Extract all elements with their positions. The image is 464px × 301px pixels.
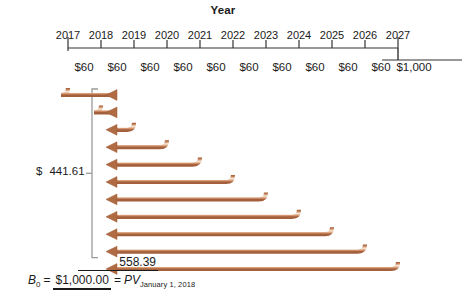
- discount-arrow-2022: [106, 66, 233, 187]
- year-label-2021: 2021: [188, 30, 212, 41]
- interest-pv-annotation: $441.61: [36, 166, 85, 178]
- cash-flow-label-2025: $60: [338, 62, 357, 74]
- year-label-2018: 2018: [89, 30, 113, 41]
- balance-annotation: 558.39 B0 = $1,000.00 = PVJanuary 1, 201…: [28, 255, 195, 290]
- year-label-2017: 2017: [56, 30, 80, 41]
- year-label-2024: 2024: [287, 30, 311, 41]
- balance-equals-1: =: [43, 273, 50, 287]
- cash-flow-label-2024: $60: [305, 62, 324, 74]
- year-label-2019: 2019: [122, 30, 146, 41]
- balance-symbol: B0: [28, 273, 40, 289]
- year-label-2025: 2025: [320, 30, 344, 41]
- interest-pv-value: 441.61: [49, 165, 84, 177]
- principal-pv-value: 558.39: [78, 255, 158, 271]
- cash-flow-label-2027: $1,000: [396, 62, 431, 74]
- interest-pv-currency: $: [36, 165, 42, 177]
- cash-flow-label-2023: $60: [272, 62, 291, 74]
- cash-flow-label-2018: $60: [107, 62, 126, 74]
- balance-total: $1,000.00: [53, 273, 110, 290]
- year-label-2027: 2027: [386, 30, 410, 41]
- year-label-2022: 2022: [221, 30, 245, 41]
- timeline-diagram: Year 20172018201920202021202220232024202…: [0, 0, 464, 301]
- cash-flow-label-2026: $60: [371, 62, 390, 74]
- cash-flow-label-2022: $60: [239, 62, 258, 74]
- cash-flow-label-2019: $60: [140, 62, 159, 74]
- year-label-2023: 2023: [254, 30, 278, 41]
- cash-flow-label-2020: $60: [173, 62, 192, 74]
- balance-pv-symbol: PVJanuary 1, 2018: [124, 273, 195, 289]
- balance-equals-2: =: [114, 273, 121, 287]
- discount-arrows: [61, 66, 398, 274]
- discount-arrow-2027: [106, 66, 398, 274]
- year-label-2020: 2020: [155, 30, 179, 41]
- cash-flow-label-2021: $60: [206, 62, 225, 74]
- discount-arrow-2021: [106, 66, 200, 170]
- cash-flow-label-2017: $60: [74, 62, 93, 74]
- year-label-2026: 2026: [353, 30, 377, 41]
- discount-arrow-2026: [106, 66, 365, 257]
- discount-arrow-2019: [106, 66, 134, 135]
